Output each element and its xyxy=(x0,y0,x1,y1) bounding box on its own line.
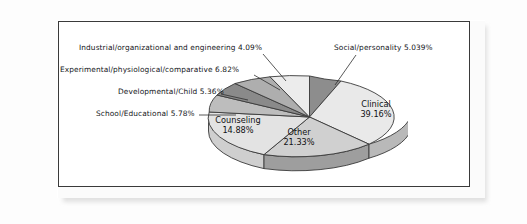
label-other-value: 21.33% xyxy=(268,137,330,147)
pie-chart: Industrial/organizational and engineerin… xyxy=(58,21,470,187)
label-other-name: Other xyxy=(268,127,330,137)
label-experimental-physiological-comparative: Experimental/physiological/comparative 6… xyxy=(60,65,239,74)
label-other: Other 21.33% xyxy=(268,127,330,148)
label-social-personality: Social/personality 5.039% xyxy=(334,43,433,52)
label-developmental-child: Developmental/Child 5.36% xyxy=(118,87,224,96)
label-counseling: Counseling 14.88% xyxy=(200,115,276,136)
label-school-educational: School/Educational 5.78% xyxy=(96,109,195,118)
label-counseling-name: Counseling xyxy=(200,115,276,125)
screenshot-canvas: Industrial/organizational and engineerin… xyxy=(0,0,527,224)
label-clinical: Clinical 39.16% xyxy=(341,99,411,120)
label-industrial-organizational: Industrial/organizational and engineerin… xyxy=(79,43,262,52)
leader-social xyxy=(335,55,356,85)
label-clinical-value: 39.16% xyxy=(341,109,411,119)
card-right-margin xyxy=(470,21,485,198)
card-bottom-margin xyxy=(58,187,485,198)
label-counseling-value: 14.88% xyxy=(200,125,276,135)
label-clinical-name: Clinical xyxy=(341,99,411,109)
